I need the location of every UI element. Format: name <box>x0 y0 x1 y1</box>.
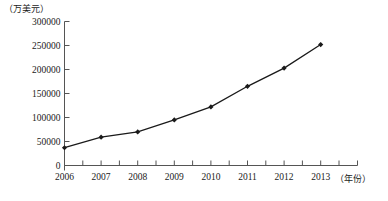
x-axis-tick-label: 2006 <box>55 172 74 182</box>
x-axis-tick-label: 2013 <box>311 172 330 182</box>
data-point-marker <box>208 104 213 109</box>
x-axis-tick-label: 2009 <box>165 172 184 182</box>
data-point-marker <box>99 135 104 140</box>
data-point-marker <box>172 117 177 122</box>
x-axis-unit-label: （年份） <box>335 172 371 185</box>
x-axis-tick-label: 2007 <box>92 172 111 182</box>
y-axis-ticks <box>65 22 70 166</box>
x-axis-tick-label: 2011 <box>238 172 257 182</box>
x-axis-ticks <box>65 161 340 166</box>
series-line <box>65 45 321 148</box>
data-point-marker <box>62 145 67 150</box>
y-axis-tick-label: 200000 <box>32 65 61 75</box>
series-markers <box>62 42 323 150</box>
x-axis-tick-label: 2012 <box>275 172 294 182</box>
data-point-marker <box>245 84 250 89</box>
y-axis-tick-label: 300000 <box>32 17 61 27</box>
y-axis-tick-label: 0 <box>56 161 61 171</box>
y-axis-tick-label: 50000 <box>37 137 61 147</box>
y-axis-tick-label: 100000 <box>32 113 61 123</box>
x-axis-tick-label: 2008 <box>128 172 147 182</box>
y-axis-tick-label: 150000 <box>32 89 61 99</box>
line-chart: （万美元） 0500001000001500002000002500003000… <box>0 0 388 201</box>
data-point-marker <box>135 129 140 134</box>
x-axis-tick-label: 2010 <box>201 172 220 182</box>
y-axis-tick-label: 250000 <box>32 41 61 51</box>
